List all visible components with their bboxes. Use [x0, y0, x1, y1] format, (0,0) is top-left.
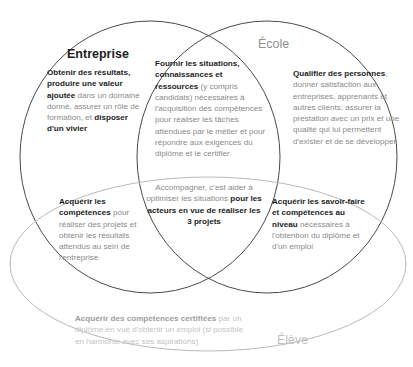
region-bold-lead: Acquérir des compétences certifiées: [75, 314, 216, 323]
region-bold-lead: Acquérir les compétences: [59, 197, 111, 217]
venn-diagram: Entreprise École Élève Obtenir des résul…: [0, 0, 413, 367]
region-body: (y compris candidats) nécessaires à l'ac…: [155, 82, 265, 159]
region-text-entreprise-eleve: Acquérir les compétences pour réaliser d…: [59, 196, 157, 264]
region-text-center-all: Accompagner, c'est aider à optimiser les…: [145, 182, 263, 227]
region-body: , donner satisfaction aux entreprises, a…: [293, 69, 399, 146]
region-text-entreprise-only: Obtenir des résultats, produire une vale…: [47, 67, 143, 135]
set-label-entreprise: Entreprise: [67, 47, 129, 61]
region-bold-lead: Qualifier des personnes: [293, 69, 385, 78]
set-label-ecole: École: [258, 37, 289, 51]
region-text-ecole-eleve: Acquérir les savoir-faire et compétences…: [272, 196, 372, 252]
region-text-eleve-only: Acquérir des compétences certifiées par …: [75, 313, 245, 347]
region-text-entreprise-ecole: Fournir les situations, connaissances et…: [155, 58, 267, 160]
set-label-eleve: Élève: [277, 333, 308, 347]
region-text-ecole-only: Qualifier des personnes, donner satisfac…: [293, 68, 403, 147]
